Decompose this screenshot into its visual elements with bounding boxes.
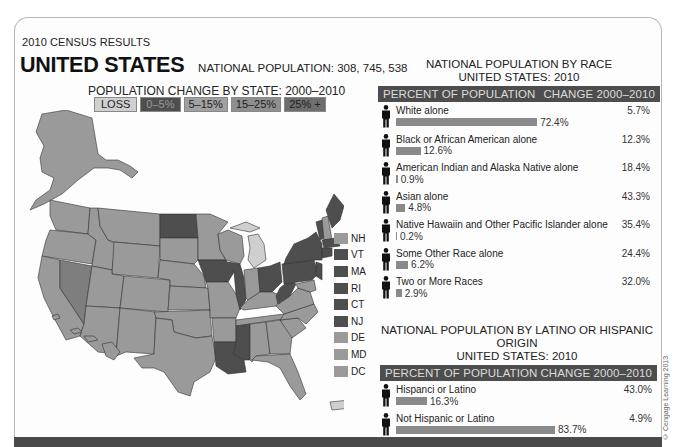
state-colorado (120, 276, 170, 312)
small-state-ma: MA (334, 263, 367, 280)
change-value: 24.4% (622, 248, 650, 259)
bar-group: 16.3% (396, 396, 458, 406)
small-state-md: MD (334, 346, 367, 363)
title-row: UNITED STATES NATIONAL POPULATION: 308, … (20, 52, 408, 78)
state-wyoming (112, 242, 160, 278)
change-value: 43.3% (622, 191, 650, 202)
category-label: Native Hawaiin and Other Pacific Islande… (396, 219, 608, 230)
small-state-label: MA (351, 266, 366, 277)
percent-bar (396, 397, 427, 405)
bar-group: 6.2% (396, 260, 434, 270)
territory-puerto-rico (330, 400, 344, 410)
state-south-dakota (160, 238, 198, 264)
percent-value: 6.2% (411, 259, 434, 270)
person-icon (381, 219, 391, 242)
chart-row: Asian alone4.8%43.3% (378, 188, 660, 217)
change-value: 4.9% (629, 413, 652, 424)
small-state-de: DE (334, 330, 367, 347)
state-arkansas (212, 318, 236, 342)
col-percent: PERCENT OF POPULATION (383, 88, 535, 100)
race-panel-header: PERCENT OF POPULATION CHANGE 2000–2010 (378, 86, 660, 102)
small-state-vt: VT (334, 247, 367, 264)
state-new-york (284, 232, 322, 264)
race-panel-title: NATIONAL POPULATION BY RACE (378, 58, 660, 71)
swatch (334, 283, 348, 294)
bar-group: 2.9% (396, 288, 427, 298)
change-value: 12.3% (622, 134, 650, 145)
percent-value: 16.3% (430, 396, 458, 407)
percent-value: 2.9% (405, 288, 428, 299)
percent-bar (396, 204, 405, 212)
state-north-dakota (160, 214, 198, 238)
person-icon (381, 162, 391, 185)
small-state-dc: DC (334, 363, 367, 380)
percent-value: 0.2% (400, 231, 423, 242)
category-label: Two or More Races (396, 276, 483, 287)
race-panel: NATIONAL POPULATION BY RACE UNITED STATE… (378, 58, 660, 302)
change-value: 32.0% (622, 276, 650, 287)
chart-row: Some Other Race alone6.2%24.4% (378, 245, 660, 274)
swatch (334, 349, 348, 360)
person-icon (381, 105, 391, 128)
small-states-legend: NH VT MA RI CT NJ DE MD DC (334, 230, 367, 379)
percent-bar (396, 426, 555, 434)
bar-group: 72.4% (396, 117, 569, 127)
category-label: Black or African American alone (396, 134, 537, 145)
bar-group: 0.2% (396, 231, 423, 241)
hispanic-panel-header: PERCENT OF POPULATION CHANGE 2000–2010 (380, 365, 657, 381)
percent-value: 0.9% (401, 174, 424, 185)
bar-group: 12.6% (396, 146, 452, 156)
state-connecticut (322, 248, 332, 258)
state-washington (50, 200, 90, 234)
small-state-label: RI (351, 283, 361, 294)
state-florida (252, 354, 306, 400)
small-state-label: DC (351, 366, 365, 377)
chart-row: Hispanci or Latino16.3%43.0% (378, 381, 662, 410)
swatch (334, 266, 348, 277)
state-new-mexico (116, 308, 156, 356)
col-change: CHANGE 2000–2010 (543, 88, 655, 100)
chart-row: American Indian and Alaska Native alone0… (378, 159, 660, 188)
percent-bar (396, 232, 397, 240)
state-kansas (168, 286, 210, 310)
state-alaska (30, 110, 138, 210)
percent-value: 72.4% (540, 117, 568, 128)
hispanic-panel-title: NATIONAL POPULATION BY LATINO OR HISPANI… (372, 324, 662, 350)
category-label: American Indian and Alaska Native alone (396, 162, 578, 173)
hispanic-panel: NATIONAL POPULATION BY LATINO OR HISPANI… (372, 324, 662, 438)
race-rows: White alone72.4%5.7%Black or African Ame… (378, 102, 660, 302)
category-label: Not Hispanic or Latino (396, 413, 494, 424)
swatch (334, 316, 348, 327)
small-state-ct: CT (334, 296, 367, 313)
percent-value: 4.8% (408, 202, 431, 213)
small-state-label: CT (351, 299, 364, 310)
small-state-label: MD (351, 349, 367, 360)
change-value: 5.7% (627, 105, 650, 116)
us-map (14, 110, 344, 420)
hispanic-rows: Hispanci or Latino16.3%43.0%Not Hispanic… (378, 381, 662, 438)
person-icon (381, 248, 391, 271)
small-state-label: VT (351, 249, 364, 260)
small-state-label: NH (351, 233, 365, 244)
change-value: 18.4% (622, 162, 650, 173)
state-michigan (248, 234, 266, 268)
col-change: CHANGE 2000–2010 (540, 367, 652, 379)
bar-group: 0.9% (396, 174, 424, 184)
national-population: NATIONAL POPULATION: 308, 745, 538 (198, 62, 407, 74)
state-mississippi (234, 324, 250, 360)
swatch (334, 332, 348, 343)
chart-row: Native Hawaiin and Other Pacific Islande… (378, 216, 660, 245)
small-state-ri: RI (334, 280, 367, 297)
page-title: UNITED STATES (20, 52, 184, 78)
state-new-jersey (316, 262, 322, 280)
change-value: 43.0% (624, 384, 652, 395)
small-state-label: DE (351, 332, 365, 343)
swatch (334, 366, 348, 377)
chart-row: Not Hispanic or Latino83.7%4.9% (378, 410, 662, 439)
category-label: Some Other Race alone (396, 248, 503, 259)
change-value: 35.4% (622, 219, 650, 230)
small-state-nj: NJ (334, 313, 367, 330)
state-missouri (206, 282, 240, 318)
small-state-nh: NH (334, 230, 367, 247)
category-label: White alone (396, 105, 449, 116)
